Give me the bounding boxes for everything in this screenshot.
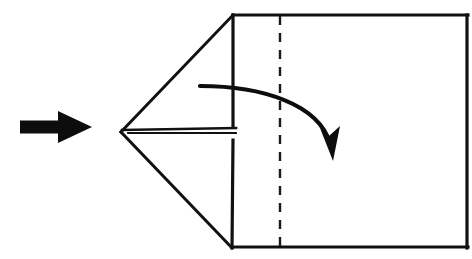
- horizontal-crease-line: [122, 128, 236, 130]
- fold-arrow-curve: [200, 86, 330, 143]
- point-upper-diagonal: [121, 15, 233, 132]
- origami-diagram: Origami fold step diagram A square sheet…: [0, 0, 472, 259]
- direction-arrow-icon: [20, 111, 92, 143]
- square-left-edge-lower: [232, 140, 233, 248]
- diagram-canvas: [0, 0, 472, 259]
- fold-arrow-head-icon: [320, 126, 340, 161]
- point-lower-diagonal: [121, 132, 232, 248]
